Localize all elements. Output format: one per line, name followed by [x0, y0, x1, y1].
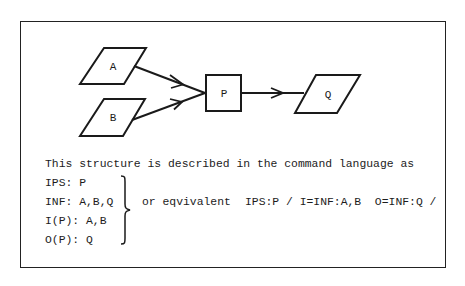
- description-line-output: O(P): Q: [45, 233, 93, 247]
- node-p-label: P: [221, 88, 228, 100]
- description-line-inf: INF: A,B,Q: [45, 195, 113, 209]
- node-q-label: Q: [325, 89, 332, 101]
- description-line-ips: IPS: P: [45, 176, 86, 190]
- edge-a-to-p: [134, 66, 205, 93]
- node-b-label: B: [110, 112, 117, 124]
- or-equivalent-label: or eqvivalent: [142, 195, 231, 209]
- description-line-input: I(P): A,B: [45, 214, 107, 228]
- equivalent-command: IPS:P / I=INF:A,B O=INF:Q /: [245, 195, 436, 209]
- edge-b-to-p: [132, 93, 205, 120]
- description-intro: This structure is described in the comma…: [45, 157, 414, 171]
- node-a-label: A: [110, 61, 117, 73]
- right-brace-icon: [119, 174, 133, 246]
